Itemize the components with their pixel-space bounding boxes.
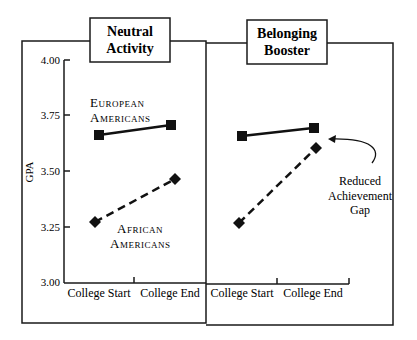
x-label-right-end: College End: [283, 286, 343, 300]
svg-text:Reduced: Reduced: [339, 174, 381, 188]
svg-text:3.25: 3.25: [41, 221, 61, 233]
svg-text:Achievement: Achievement: [328, 189, 393, 203]
panel-title-belonging: Belonging Booster: [247, 20, 327, 64]
annotation-reduced-gap: Reduced Achievement Gap: [328, 135, 393, 217]
series-european-right: [237, 123, 319, 141]
series-label-african: African Americans: [110, 221, 170, 251]
diamond-marker: [310, 142, 322, 154]
svg-text:4.00: 4.00: [41, 54, 61, 66]
x-axis-left: [64, 277, 206, 283]
svg-text:3.50: 3.50: [41, 165, 61, 177]
svg-text:Gap: Gap: [350, 203, 370, 217]
svg-text:Booster: Booster: [264, 43, 310, 58]
square-marker: [237, 131, 247, 141]
x-label-right-start: College Start: [211, 286, 275, 300]
arrow-head-icon: [328, 135, 336, 143]
square-marker: [309, 123, 319, 133]
panel-title-neutral: Neutral Activity: [90, 18, 170, 62]
svg-text:Belonging: Belonging: [257, 26, 317, 41]
y-axis: [64, 60, 70, 283]
chart: Neutral Activity Belonging Booster 4.00 …: [0, 0, 417, 340]
svg-text:Americans: Americans: [110, 236, 170, 251]
y-axis-label: GPA: [23, 161, 35, 182]
svg-text:Americans: Americans: [90, 110, 150, 125]
svg-text:African: African: [117, 221, 163, 236]
series-african-right: [233, 142, 322, 229]
svg-text:3.00: 3.00: [41, 276, 61, 288]
svg-text:3.75: 3.75: [41, 109, 61, 121]
svg-text:Activity: Activity: [106, 41, 153, 56]
diamond-marker: [169, 173, 181, 185]
svg-text:Neutral: Neutral: [107, 24, 153, 39]
svg-text:European: European: [90, 95, 144, 110]
series-label-european: European Americans: [90, 95, 150, 125]
diamond-marker: [89, 216, 101, 228]
y-tick-labels: 4.00 3.75 3.50 3.25 3.00: [41, 54, 61, 288]
square-marker: [166, 120, 176, 130]
x-label-left-start: College Start: [68, 286, 132, 300]
x-axis-right: [206, 278, 349, 284]
series-african-left: [89, 173, 181, 228]
square-marker: [94, 130, 104, 140]
x-label-left-end: College End: [140, 286, 200, 300]
